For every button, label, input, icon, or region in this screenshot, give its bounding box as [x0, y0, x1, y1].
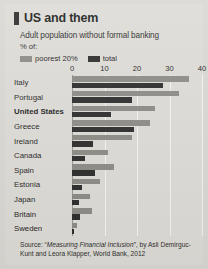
chart-row: Estonia [14, 177, 206, 192]
chart-rows: ItalyPortugalUnited StatesGreeceIrelandC… [14, 75, 206, 236]
bar-united-states-poorest-20 [72, 106, 155, 111]
chart-row: Greece [14, 119, 206, 134]
row-label-estonia: Estonia [14, 178, 68, 191]
row-label-portugal: Portugal [14, 91, 68, 104]
row-label-italy: Italy [14, 76, 68, 89]
bar-greece-poorest-20 [72, 120, 150, 125]
bar-spain-poorest-20 [72, 164, 114, 169]
chart-row: Canada [14, 148, 206, 163]
legend-swatch-total [88, 56, 100, 62]
chart-row: Ireland [14, 134, 206, 149]
chart-row: Portugal [14, 90, 206, 105]
chart-row: United States [14, 104, 206, 119]
x-axis-ticks: 010203040 [14, 64, 206, 75]
row-label-greece: Greece [14, 120, 68, 133]
bar-japan-total [72, 200, 79, 205]
bar-canada-total [72, 156, 85, 161]
title-row: US and them [14, 12, 98, 25]
legend-item-poorest: poorest 20% [20, 54, 78, 63]
row-label-japan: Japan [14, 193, 68, 206]
bar-japan-poorest-20 [72, 194, 90, 199]
row-bars [72, 119, 206, 134]
bar-ireland-total [72, 141, 93, 146]
bar-britain-poorest-20 [72, 208, 92, 213]
chart-unit-label: % of: [20, 42, 37, 51]
bar-spain-total [72, 170, 95, 175]
bar-italy-total [72, 83, 163, 88]
bar-estonia-poorest-20 [72, 179, 100, 184]
row-bars [72, 75, 206, 90]
row-bars [72, 192, 206, 207]
page-title: US and them [24, 12, 98, 25]
row-bars [72, 104, 206, 119]
chart-row: Italy [14, 75, 206, 90]
row-bars [72, 177, 206, 192]
bar-greece-total [72, 127, 134, 132]
source-prefix: Source: “ [20, 241, 47, 248]
chart-row: Britain [14, 207, 206, 222]
bar-estonia-total [72, 185, 82, 190]
x-axis-tick-20: 20 [133, 64, 141, 73]
row-bars [72, 163, 206, 178]
bar-britain-total [72, 214, 80, 219]
bar-united-states-total [72, 112, 111, 117]
row-bars [72, 221, 206, 236]
x-axis-tick-10: 10 [100, 64, 108, 73]
x-axis-tick-30: 30 [165, 64, 173, 73]
bar-canada-poorest-20 [72, 150, 108, 155]
chart-subtitle: Adult population without formal banking [20, 31, 159, 40]
bar-portugal-total [72, 97, 132, 102]
accent-bar-icon [14, 12, 19, 25]
x-axis-tick-0: 0 [70, 64, 74, 73]
bar-sweden-total [72, 229, 74, 234]
chart-row: Spain [14, 163, 206, 178]
row-label-sweden: Sweden [14, 222, 68, 235]
row-label-united-states: United States [14, 105, 68, 118]
row-bars [72, 134, 206, 149]
chart-row: Sweden [14, 221, 206, 236]
legend-label-total: total [103, 54, 117, 63]
row-bars [72, 207, 206, 222]
legend-swatch-poorest [20, 56, 32, 62]
row-label-spain: Spain [14, 164, 68, 177]
row-bars [72, 90, 206, 105]
chart-plot-area: 010203040 ItalyPortugalUnited StatesGree… [14, 64, 206, 236]
bar-portugal-poorest-20 [72, 91, 179, 96]
row-label-ireland: Ireland [14, 135, 68, 148]
chart-row: Japan [14, 192, 206, 207]
row-label-canada: Canada [14, 149, 68, 162]
chart-page: US and them Adult population without for… [0, 0, 208, 269]
legend-item-total: total [88, 54, 117, 63]
row-label-britain: Britain [14, 208, 68, 221]
bar-ireland-poorest-20 [72, 135, 132, 140]
bar-italy-poorest-20 [72, 76, 189, 81]
row-bars [72, 148, 206, 163]
chart-legend: poorest 20% total [20, 54, 117, 63]
bar-sweden-poorest-20 [72, 223, 77, 228]
chart-frame: US and them Adult population without for… [5, 4, 203, 265]
source-title: Measuring Financial Inclusion [47, 241, 134, 248]
source-note: Source: “Measuring Financial Inclusion”,… [20, 240, 198, 258]
legend-label-poorest: poorest 20% [35, 54, 78, 63]
x-axis-tick-40: 40 [198, 64, 206, 73]
